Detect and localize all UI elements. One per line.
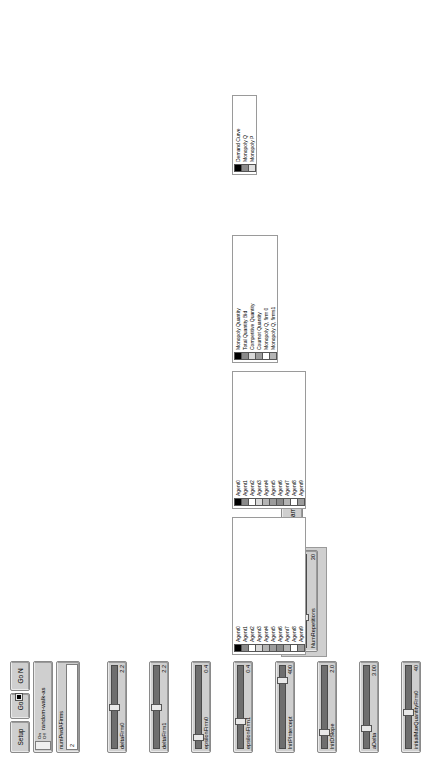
legend-label: Agent4 xyxy=(263,626,269,642)
slider-adelta-value: 3.00 xyxy=(371,665,377,676)
slider-lnitdslope-value: 2.0 xyxy=(329,665,335,673)
legend-label: Monopoly Q, firms1 xyxy=(270,307,276,350)
switch-off-label: Off xyxy=(43,733,48,739)
slider-track[interactable] xyxy=(237,665,244,749)
legend-label: Total Quantity Bid xyxy=(242,311,248,350)
input-numpwdafirms-value[interactable]: 2 xyxy=(66,664,78,750)
legend-item[interactable]: Agent9 xyxy=(297,520,304,652)
slider-deltafirm1-label: deltaFirm1 xyxy=(161,723,167,749)
legend-item[interactable]: Agent3 xyxy=(255,520,262,652)
legend-label: Agent8 xyxy=(291,480,297,496)
legend-label: Agent5 xyxy=(270,480,276,496)
slider-epsilonfirm0-value: 0.4 xyxy=(203,665,209,673)
legend-item[interactable]: Cournot Quantity xyxy=(255,238,262,360)
legend-label: Agent1 xyxy=(242,480,248,496)
legend-initial-demand-curve: Demand Curve Monopoly Q Monopoly P xyxy=(232,95,257,175)
legend-label: Agent2 xyxy=(249,626,255,642)
legend-label: Agent7 xyxy=(284,480,290,496)
legend-item[interactable]: Agent0 xyxy=(234,374,241,506)
checkmark-icon xyxy=(17,695,21,699)
slider-lnitpintercept-value: 400 xyxy=(287,665,293,674)
slider-numrepetitions-value: 30 xyxy=(310,554,316,560)
legend-quantities-bid: Monopoly Quantity Total Quantity Bid Com… xyxy=(232,235,278,363)
legend-label: Agent9 xyxy=(298,626,304,642)
legend-item[interactable]: Agent3 xyxy=(255,374,262,506)
slider-adelta-label: aDelta xyxy=(371,733,377,749)
legend-label: Agent9 xyxy=(298,480,304,496)
go-once-button-label: Go xyxy=(17,702,24,711)
go-forever-button-label: Go N xyxy=(17,668,24,683)
legend-label: Agent6 xyxy=(277,626,283,642)
slider-deltafirm1[interactable]: deltaFirm1 2.2 xyxy=(149,661,169,753)
legend-item[interactable]: Agent6 xyxy=(276,520,283,652)
legend-item[interactable]: Agent7 xyxy=(283,520,290,652)
netlogo-interface: Setup Go Go N On Off random-walk-as numP… xyxy=(0,0,431,759)
slider-adelta[interactable]: aDelta 3.00 xyxy=(359,661,379,753)
slider-numrepetitions-label: NumRepetitions xyxy=(310,608,316,648)
slider-lnitdslope[interactable]: lnitDSlope 2.0 xyxy=(317,661,337,753)
legend-item[interactable]: Agent8 xyxy=(290,520,297,652)
slider-deltafirm0[interactable]: deltaFirm0 2.2 xyxy=(107,661,127,753)
go-forever-button[interactable]: Go N xyxy=(10,661,30,691)
screenshot-stage: Setup Go Go N On Off random-walk-as numP… xyxy=(0,0,431,759)
go-forever-checkbox[interactable] xyxy=(15,693,23,701)
slider-epsilonfirm1[interactable]: epsilonFirm1 0.4 xyxy=(233,661,253,753)
setup-button-label: Setup xyxy=(17,729,24,746)
legend-item[interactable]: Demand Curve xyxy=(234,98,241,172)
legend-item[interactable]: Agent8 xyxy=(290,374,297,506)
legend-label: Demand Curve xyxy=(235,128,241,162)
legend-label: Agent0 xyxy=(235,480,241,496)
slider-lnitpintercept-label: lnitPIntercept xyxy=(287,716,293,749)
legend-swatch-agent9 xyxy=(297,644,305,652)
input-numpwdafirms[interactable]: numPwdAFirms 2 xyxy=(56,661,80,753)
legend-item[interactable]: Agent1 xyxy=(241,374,248,506)
legend-item[interactable]: Monopoly Quantity xyxy=(234,238,241,360)
slider-thumb[interactable] xyxy=(277,678,288,685)
legend-average-rewards: Agent0 Agent1 Agent2 Agent3 Agent4 Agent… xyxy=(232,517,306,655)
legend-label: Agent5 xyxy=(270,626,276,642)
slider-lnitpintercept[interactable]: lnitPIntercept 400 xyxy=(275,661,295,753)
legend-label: Monopoly P xyxy=(249,136,255,162)
legend-item[interactable]: Monopoly Q, firms1 xyxy=(269,238,276,360)
legend-item[interactable]: Agent7 xyxy=(283,374,290,506)
legend-item[interactable]: Agent5 xyxy=(269,374,276,506)
slider-initialmaxquantityfirm0[interactable]: initialMaxQuantityFirm0 40 xyxy=(401,661,421,753)
legend-item[interactable]: Monopoly Q xyxy=(241,98,248,172)
legend-item[interactable]: Agent6 xyxy=(276,374,283,506)
legend-item[interactable]: Agent9 xyxy=(297,374,304,506)
slider-deltafirm1-value: 2.2 xyxy=(161,665,167,673)
slider-initialmaxquantityfirm0-label: initialMaxQuantityFirm0 xyxy=(413,691,419,749)
slider-epsilonfirm0[interactable]: epsilonFirm0 0.4 xyxy=(191,661,211,753)
slider-lnitdslope-label: lnitDSlope xyxy=(329,724,335,750)
slider-thumb[interactable] xyxy=(361,725,372,732)
legend-item[interactable]: Competitive Quantity xyxy=(248,238,255,360)
legend-item[interactable]: Agent4 xyxy=(262,374,269,506)
legend-individual-bids: Agent0 Agent1 Agent2 Agent3 Agent4 Agent… xyxy=(232,371,306,509)
legend-item[interactable]: Agent1 xyxy=(241,520,248,652)
slider-epsilonfirm0-label: epsilonFirm0 xyxy=(203,717,209,749)
slider-track[interactable] xyxy=(405,665,412,749)
slider-thumb[interactable] xyxy=(109,705,120,712)
legend-item[interactable]: Monopoly Q, firm 0 xyxy=(262,238,269,360)
legend-label: Agent3 xyxy=(256,626,262,642)
legend-label: Agent3 xyxy=(256,480,262,496)
legend-item[interactable]: Agent5 xyxy=(269,520,276,652)
setup-button[interactable]: Setup xyxy=(10,721,30,753)
legend-label: Agent8 xyxy=(291,626,297,642)
switch-label: random-walk-as xyxy=(40,687,46,730)
legend-label: Agent1 xyxy=(242,626,248,642)
legend-item[interactable]: Total Quantity Bid xyxy=(241,238,248,360)
legend-item[interactable]: Agent4 xyxy=(262,520,269,652)
legend-label: Cournot Quantity xyxy=(256,312,262,350)
legend-swatch-monopoly-p xyxy=(248,164,256,172)
legend-item[interactable]: Agent0 xyxy=(234,520,241,652)
slider-track[interactable] xyxy=(321,665,328,749)
slider-track[interactable] xyxy=(363,665,370,749)
slider-epsilonfirm1-value: 0.4 xyxy=(245,665,251,673)
legend-item[interactable]: Monopoly P xyxy=(248,98,255,172)
switch-knob-icon xyxy=(35,741,51,750)
slider-thumb[interactable] xyxy=(151,705,162,712)
legend-item[interactable]: Agent2 xyxy=(248,374,255,506)
legend-item[interactable]: Agent2 xyxy=(248,520,255,652)
switch-random-walk-as[interactable]: On Off random-walk-as xyxy=(33,661,53,753)
